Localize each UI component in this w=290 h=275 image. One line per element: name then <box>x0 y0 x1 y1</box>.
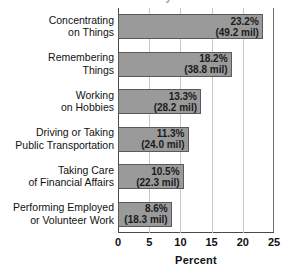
bar-millions-value: (28.2 mil) <box>154 102 197 113</box>
bar-row: 8.6%(18.3 mil) <box>118 202 274 227</box>
bar-row: 10.5%(22.3 mil) <box>118 164 274 189</box>
bar-percent-value: 18.2% <box>184 53 227 64</box>
bar-row: 23.2%(49.2 mil) <box>118 14 274 39</box>
category-label-line1: Concentrating <box>2 14 114 26</box>
bar-value-label: 13.3%(28.2 mil) <box>154 91 201 113</box>
gridline-15 <box>212 8 213 233</box>
bar-percent-value: 23.2% <box>215 16 258 27</box>
category-label-line2: or Volunteer Work <box>2 214 114 226</box>
bar-millions-value: (38.8 mil) <box>184 64 227 75</box>
bar-millions-value: (49.2 mil) <box>215 27 258 38</box>
x-axis-line <box>118 232 274 233</box>
category-label-line1: Driving or Taking <box>2 126 114 138</box>
bar-value-label: 11.3%(24.0 mil) <box>141 128 188 150</box>
bar-percent-value: 10.5% <box>136 166 179 177</box>
category-label: Performing Employedor Volunteer Work <box>2 201 114 226</box>
category-label-line1: Working <box>2 89 114 101</box>
category-label: Driving or TakingPublic Transportation <box>2 126 114 151</box>
plot-area: 23.2%(49.2 mil)18.2%(38.8 mil)13.3%(28.2… <box>118 8 274 233</box>
category-label-line2: Public Transportation <box>2 139 114 151</box>
gridline-20 <box>243 8 244 233</box>
bar-row: 11.3%(24.0 mil) <box>118 127 274 152</box>
bar-percent-value: 13.3% <box>154 91 197 102</box>
gridline-10 <box>180 8 181 233</box>
category-label: Concentratingon Things <box>2 14 114 39</box>
bar-row: 18.2%(38.8 mil) <box>118 52 274 77</box>
category-label-line2: of Financial Affairs <box>2 176 114 188</box>
category-label-line2: on Things <box>2 26 114 38</box>
bar-value-label: 18.2%(38.8 mil) <box>184 53 231 75</box>
bar-chart: 23.2%(49.2 mil)18.2%(38.8 mil)13.3%(28.2… <box>0 0 290 275</box>
x-tick-15: 15 <box>197 236 227 248</box>
category-label-line2: on Hobbies <box>2 101 114 113</box>
bar-value-label: 23.2%(49.2 mil) <box>215 16 262 38</box>
gridline-5 <box>149 8 150 233</box>
y-axis-line <box>118 8 119 233</box>
x-tick-20: 20 <box>228 236 258 248</box>
x-tick-10: 10 <box>165 236 195 248</box>
bar-value-label: 8.6%(18.3 mil) <box>124 203 171 225</box>
category-label: Taking Careof Financial Affairs <box>2 164 114 189</box>
bar-millions-value: (24.0 mil) <box>141 139 184 150</box>
category-label-line2: Things <box>2 64 114 76</box>
category-label-line1: Taking Care <box>2 164 114 176</box>
bar-percent-value: 11.3% <box>141 128 184 139</box>
category-label-line1: Performing Employed <box>2 201 114 213</box>
category-label-line1: Remembering <box>2 51 114 63</box>
x-tick-0: 0 <box>103 236 133 248</box>
bar-millions-value: (22.3 mil) <box>136 177 179 188</box>
category-label: Workingon Hobbies <box>2 89 114 114</box>
bar-row: 13.3%(28.2 mil) <box>118 89 274 114</box>
bar-millions-value: (18.3 mil) <box>124 214 167 225</box>
category-label: RememberingThings <box>2 51 114 76</box>
x-tick-5: 5 <box>134 236 164 248</box>
x-axis-title: Percent <box>118 254 274 266</box>
x-tick-25: 25 <box>259 236 289 248</box>
bar-percent-value: 8.6% <box>124 203 167 214</box>
plot-right-border <box>273 8 274 233</box>
bar-value-label: 10.5%(22.3 mil) <box>136 166 183 188</box>
